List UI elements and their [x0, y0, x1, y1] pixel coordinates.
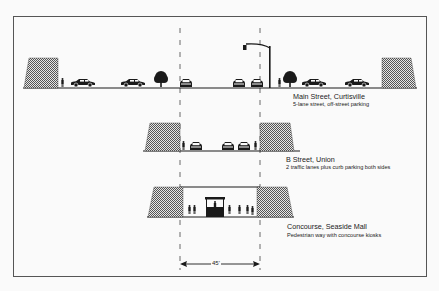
section-concourse	[147, 187, 294, 217]
kiosk-icon	[205, 197, 225, 217]
street-section-diagram	[0, 0, 439, 291]
concourse-description: Pedestrian way with concourse kiosks	[287, 232, 381, 238]
concourse-title: Concourse, Seaside Mall	[287, 222, 367, 231]
dimension-label: 45'	[211, 260, 221, 266]
b-street-title: B Street, Union	[286, 155, 335, 164]
b-street-description: 2 traffic lanes plus curb parking both s…	[286, 164, 390, 170]
main-street-title: Main Street, Curtisville	[293, 92, 365, 101]
building-right	[382, 58, 416, 88]
section-main-street	[23, 44, 417, 88]
building-left	[24, 58, 58, 88]
main-street-description: 5-lane street, off-street parking	[293, 101, 369, 107]
section-b-street	[143, 123, 300, 151]
